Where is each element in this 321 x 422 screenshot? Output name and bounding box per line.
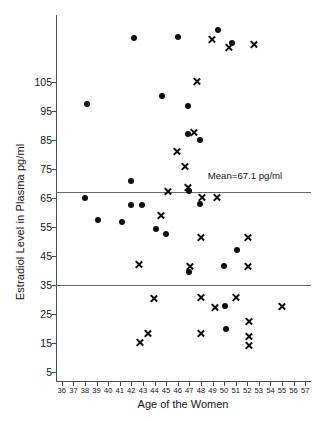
data-point-cross xyxy=(184,183,193,192)
data-point-filled-circle xyxy=(163,231,169,237)
data-point-cross xyxy=(243,262,252,271)
data-point-filled-circle xyxy=(119,219,125,225)
data-point-cross xyxy=(189,128,198,137)
data-point-cross xyxy=(180,162,189,171)
y-tick-label-wrap: 35 xyxy=(0,280,52,290)
data-point-cross xyxy=(143,329,152,338)
data-point-cross xyxy=(224,43,233,52)
y-tick-label: 85 xyxy=(18,135,52,145)
data-point-cross xyxy=(163,187,172,196)
estradiol-scatter-figure: Estradiol Level in Plasma pg/ml Age of t… xyxy=(0,0,321,422)
y-tick-label: 35 xyxy=(18,280,52,290)
data-point-cross xyxy=(149,294,158,303)
data-point-filled-circle xyxy=(221,263,227,269)
y-tick-label: 15 xyxy=(18,338,52,348)
data-point-cross xyxy=(210,303,219,312)
data-point-filled-circle xyxy=(82,195,88,201)
data-point-filled-circle xyxy=(185,103,191,109)
data-point-cross xyxy=(244,341,253,350)
data-point-cross xyxy=(192,77,201,86)
data-point-cross xyxy=(207,35,216,44)
data-point-cross xyxy=(213,193,222,202)
data-point-filled-circle xyxy=(131,35,137,41)
y-tick-label: 95 xyxy=(18,106,52,116)
data-point-cross xyxy=(172,147,181,156)
data-point-cross xyxy=(196,293,205,302)
mean-annotation-label: Mean=67.1 pg/ml xyxy=(208,170,282,181)
x-axis-title: Age of the Women xyxy=(55,398,311,410)
data-point-filled-circle xyxy=(139,202,145,208)
data-point-cross xyxy=(156,211,165,220)
data-point-filled-circle xyxy=(234,247,240,253)
data-point-filled-circle xyxy=(128,202,134,208)
y-tick-label-wrap: 95 xyxy=(0,106,52,116)
y-tick-label-wrap: 5 xyxy=(0,367,52,377)
y-tick-label-wrap: 55 xyxy=(0,222,52,232)
y-tick-label: 75 xyxy=(18,164,52,174)
y-tick-label: 45 xyxy=(18,251,52,261)
y-tick-label: 25 xyxy=(18,309,52,319)
data-point-cross xyxy=(244,317,253,326)
data-point-cross xyxy=(185,262,194,271)
data-point-cross xyxy=(231,293,240,302)
y-tick-label-wrap: 85 xyxy=(0,135,52,145)
y-tick-label-wrap: 65 xyxy=(0,193,52,203)
data-point-cross xyxy=(250,40,259,49)
data-point-cross xyxy=(134,260,143,269)
data-point-cross xyxy=(135,338,144,347)
data-point-cross xyxy=(198,193,207,202)
data-point-cross xyxy=(244,332,253,341)
y-tick-label: 5 xyxy=(18,367,52,377)
y-tick-label-wrap: 15 xyxy=(0,338,52,348)
data-point-cross xyxy=(196,233,205,242)
data-point-filled-circle xyxy=(223,326,229,332)
data-point-filled-circle xyxy=(215,27,221,33)
y-tick-label-wrap: 75 xyxy=(0,164,52,174)
y-tick-label-wrap: 45 xyxy=(0,251,52,261)
data-point-filled-circle xyxy=(128,178,134,184)
y-tick-label-wrap: 25 xyxy=(0,309,52,319)
data-point-filled-circle xyxy=(95,217,101,223)
y-tick-label: 65 xyxy=(18,193,52,203)
plot-area xyxy=(56,15,311,381)
data-point-filled-circle xyxy=(153,226,159,232)
y-tick-label: 55 xyxy=(18,222,52,232)
x-tick-label: 57 xyxy=(297,386,313,396)
x-axis-line xyxy=(56,381,311,382)
data-point-cross xyxy=(196,329,205,338)
y-tick-label: 105 xyxy=(18,77,52,87)
data-point-filled-circle xyxy=(175,34,181,40)
lower-line xyxy=(56,285,311,286)
data-point-filled-circle xyxy=(222,303,228,309)
data-point-cross xyxy=(243,233,252,242)
data-point-filled-circle xyxy=(159,93,165,99)
data-point-filled-circle xyxy=(84,101,90,107)
data-point-cross xyxy=(278,302,287,311)
y-tick-label-wrap: 105 xyxy=(0,77,52,87)
data-point-filled-circle xyxy=(197,137,203,143)
